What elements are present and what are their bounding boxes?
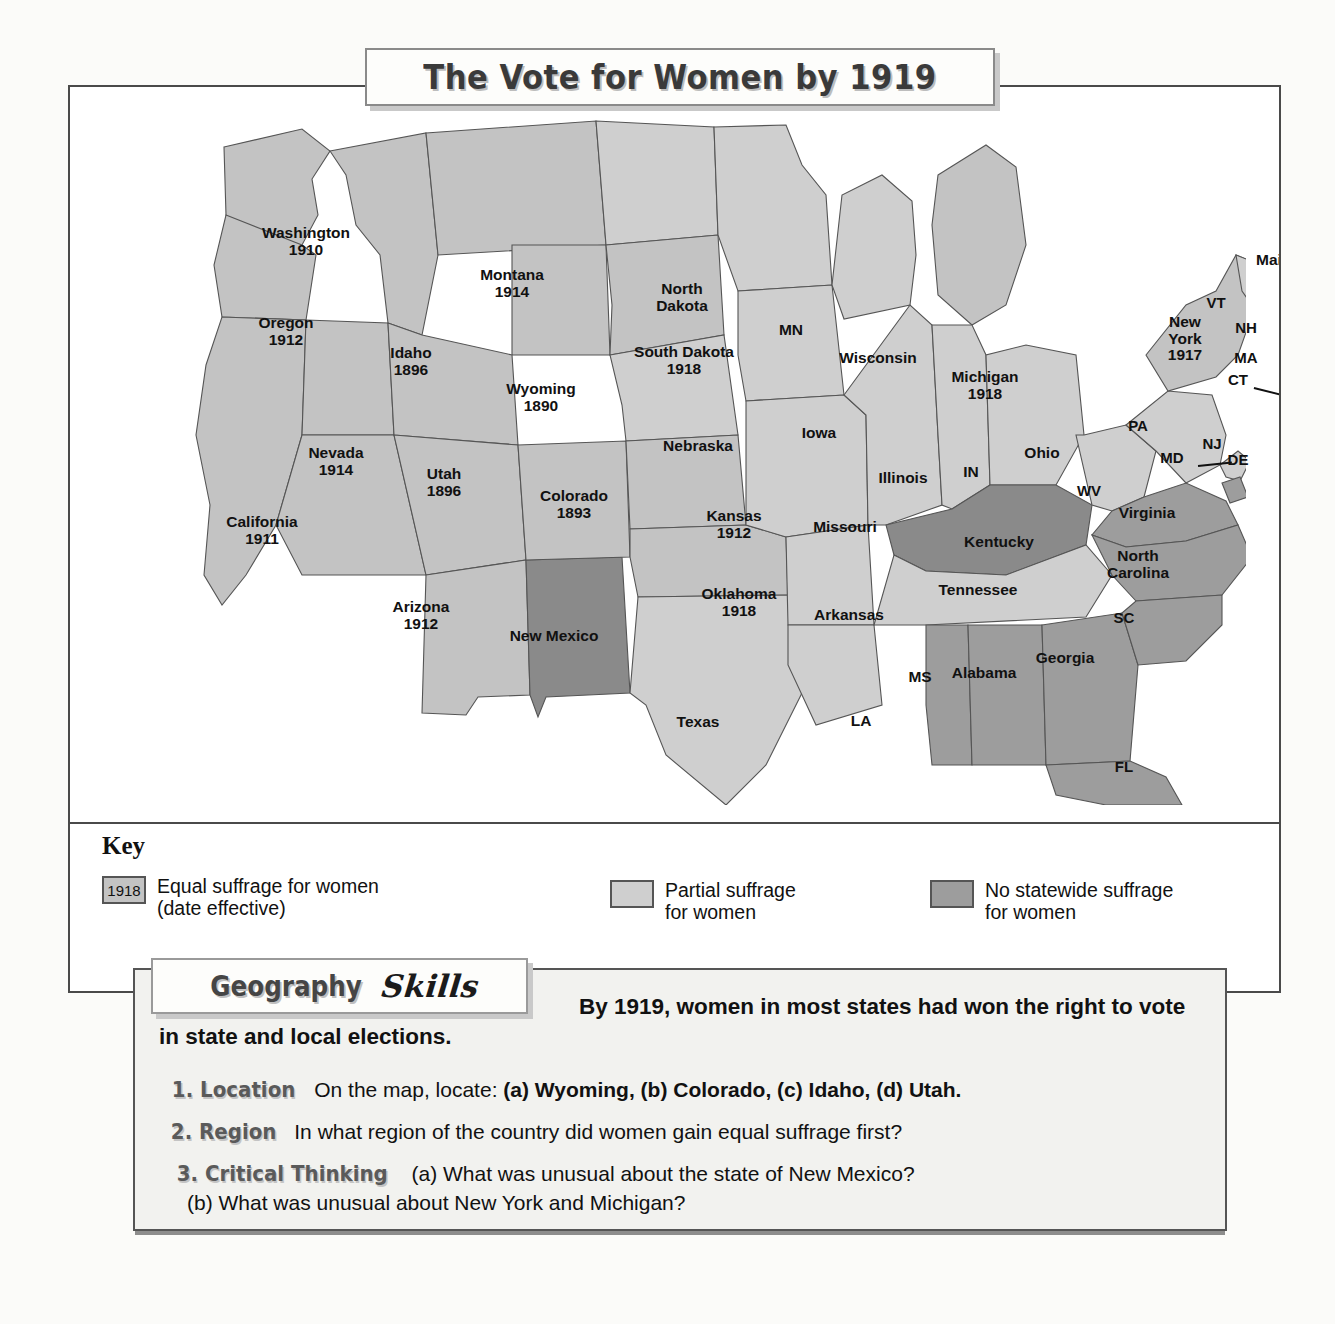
question-3-text-b: (b) What was unusual about New York and … <box>187 1189 1205 1216</box>
map-frame: Washington1910 Oregon1912 Idaho1896 Mont… <box>68 85 1281 993</box>
leader-line-rhode-island <box>1254 387 1279 397</box>
key-swatch-partial <box>610 880 654 908</box>
map-state-shapes <box>196 121 1246 805</box>
key-swatch-none <box>930 880 974 908</box>
us-map-svg <box>126 105 1246 805</box>
question-2-label: 2. Region <box>171 1118 277 1147</box>
key-item-equal: 1918 Equal suffrage for women(date effec… <box>102 876 532 920</box>
geography-question-3: 3. Critical Thinking(a) What was unusual… <box>165 1160 1205 1216</box>
key-label-none: No statewide suffragefor women <box>985 880 1173 924</box>
question-1-parts: (a) Wyoming, (b) Colorado, (c) Idaho, (d… <box>503 1078 961 1101</box>
question-1-text: On the map, locate: <box>314 1078 497 1101</box>
key-swatch-equal: 1918 <box>102 876 146 904</box>
question-1-label: 1. Location <box>172 1076 295 1105</box>
map-canvas: Washington1910 Oregon1912 Idaho1896 Mont… <box>70 87 1279 822</box>
question-2-text: In what region of the country did women … <box>294 1120 902 1143</box>
page-title: The Vote for Women by 1919 <box>423 58 936 97</box>
question-3-label: 3. Critical Thinking <box>177 1160 388 1189</box>
question-3-text-a: (a) What was unusual about the state of … <box>411 1162 914 1185</box>
key-title: Key <box>102 832 145 860</box>
page-root: Washington1910 Oregon1912 Idaho1896 Mont… <box>0 0 1335 1324</box>
map-label-maine: Maine <box>1256 252 1279 269</box>
map-title-plaque: The Vote for Women by 1919 <box>365 48 995 106</box>
geography-skills-badge: Geography Skills <box>151 958 528 1014</box>
geography-question-2: 2. RegionIn what region of the country d… <box>165 1118 1205 1147</box>
key-item-partial: Partial suffragefor women <box>610 880 890 924</box>
key-item-none: No statewide suffragefor women <box>930 880 1260 924</box>
key-label-equal: Equal suffrage for women(date effective) <box>157 876 379 920</box>
key-label-partial: Partial suffragefor women <box>665 880 796 924</box>
badge-word-geography: Geography <box>210 970 362 1003</box>
badge-word-skills: Skills <box>380 968 480 1004</box>
geography-question-1: 1. LocationOn the map, locate: (a) Wyomi… <box>165 1076 1205 1105</box>
